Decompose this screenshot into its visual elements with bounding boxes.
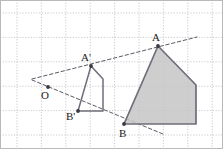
- geometry-figure: O A' B' A B: [0, 0, 223, 149]
- vertex-marker-b: [122, 122, 126, 126]
- label-b-prime: B': [66, 110, 75, 122]
- label-b: B: [119, 127, 126, 139]
- label-center-o: O: [41, 89, 49, 101]
- label-a: A: [152, 31, 160, 43]
- label-a-prime: A': [81, 51, 91, 63]
- vertex-marker-bp: [76, 109, 80, 113]
- vertex-marker-a: [156, 44, 160, 48]
- figure-canvas: O A' B' A B: [0, 0, 223, 149]
- vertex-marker-ap: [89, 64, 93, 68]
- figure-background: [0, 0, 223, 149]
